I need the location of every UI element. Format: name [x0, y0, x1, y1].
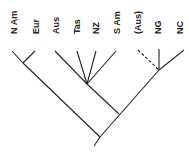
taxon-label-aus: Aus [51, 17, 61, 34]
taxon-label-tas: Tas [72, 19, 82, 34]
taxon-label-eur: Eur [31, 19, 41, 34]
taxon-label-nc: NC [175, 21, 185, 34]
taxon-label-nz: NZ [91, 22, 101, 34]
branch-n-am [12, 51, 23, 63]
taxon-label-n-am: N Am [9, 11, 19, 34]
taxon-label-aus-paren: (Aus) [133, 11, 143, 34]
taxon-label-ng: NG [153, 21, 163, 35]
taxon-label-s-am: S Am [112, 11, 122, 34]
branch-main-right [100, 70, 159, 137]
branch-gondwana-clade [87, 84, 119, 114]
branch-eur [23, 51, 35, 63]
root-stem [94, 137, 100, 146]
branch-nc [159, 50, 184, 70]
branch-aus-paren [138, 50, 159, 70]
cladogram-figure: N AmEurAusTasNZS Am(Aus)NGNC [0, 0, 189, 155]
branch-holarctic [23, 63, 100, 137]
